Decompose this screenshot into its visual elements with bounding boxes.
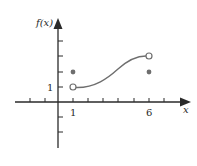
y-axis-label: f(x) <box>35 17 53 28</box>
filled-point-1-2 <box>71 70 76 75</box>
y-axis-arrow-icon <box>54 18 63 29</box>
open-point-1-1 <box>70 84 76 90</box>
function-graph: f(x) x 1 6 1 <box>0 0 197 166</box>
x-axis-label: x <box>183 104 189 115</box>
x-tick-label-6: 6 <box>146 107 152 118</box>
y-tick-label-1: 1 <box>47 82 53 93</box>
filled-point-6-2 <box>147 70 152 75</box>
open-point-6-3 <box>146 53 152 59</box>
x-tick-label-1: 1 <box>70 107 76 118</box>
y-ticks <box>58 41 63 132</box>
function-curve <box>76 56 146 88</box>
